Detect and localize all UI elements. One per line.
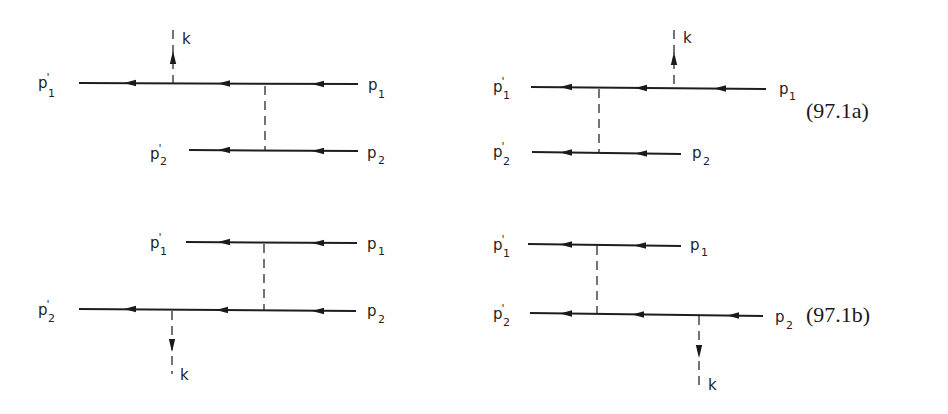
p1-prime-subscript: 1 [503, 89, 510, 102]
p1-prime-subscript: 1 [503, 247, 510, 260]
arrow-down-icon [169, 339, 175, 352]
arrow-left-icon [727, 312, 739, 318]
feynman-diagram-figure: k p' 1 p' 2 p 1 p 2 k p' 1 p' 2 p 1 p 2 … [0, 0, 948, 414]
arrow-down-icon [696, 345, 702, 358]
p1-subscript: 1 [378, 245, 385, 258]
p2-prime-subscript: 2 [48, 312, 55, 325]
diagram-a-left: k p' 1 p' 2 p 1 p 2 [38, 30, 385, 168]
p1-label: p [368, 76, 378, 94]
p1-prime-subscript: 1 [160, 245, 167, 258]
arrow-left-icon [124, 80, 136, 86]
arrow-left-icon [634, 242, 646, 248]
arrow-left-icon [218, 239, 230, 245]
p1-label: p [690, 236, 700, 254]
p2-prime-subscript: 2 [503, 155, 510, 168]
arrow-left-icon [714, 85, 726, 91]
arrow-left-icon [635, 85, 647, 91]
arrow-left-icon [312, 81, 324, 87]
p2-subscript: 2 [703, 155, 710, 168]
p1-subscript: 1 [789, 90, 796, 103]
p2-label: p [775, 308, 785, 326]
p2-subscript: 2 [786, 319, 793, 332]
arrow-left-icon [124, 306, 136, 312]
diagram-a-right: k p' 1 p' 2 p 1 p 2 [493, 29, 796, 168]
p2-prime-subscript: 2 [160, 155, 167, 168]
photon-label: k [180, 366, 189, 384]
p1-prime-subscript: 1 [48, 87, 55, 100]
fermion-line-2 [189, 150, 358, 151]
diagram-b-right: k p' 1 p' 2 p 1 p 2 [493, 233, 793, 394]
arrow-left-icon [312, 240, 324, 246]
photon-label: k [182, 30, 191, 48]
p2-label: p [367, 144, 377, 162]
photon-label: k [708, 376, 717, 394]
arrow-left-icon [635, 150, 647, 156]
fermion-line-1 [186, 242, 357, 243]
arrow-left-icon [560, 84, 572, 90]
arrow-up-icon [170, 51, 176, 64]
arrow-left-icon [218, 147, 230, 153]
fermion-line-1 [528, 244, 681, 246]
p1-label: p [779, 80, 789, 98]
arrow-left-icon [312, 148, 324, 154]
arrow-up-icon [671, 52, 677, 65]
equation-number-b: (97.1b) [806, 302, 870, 327]
fermion-line-2 [532, 152, 681, 154]
photon-label: k [683, 29, 692, 47]
p2-subscript: 2 [378, 313, 385, 326]
arrow-left-icon [312, 308, 324, 314]
arrow-left-icon [560, 241, 572, 247]
p2-label: p [692, 144, 702, 162]
p2-prime-subscript: 2 [503, 316, 510, 329]
arrow-left-icon [560, 149, 572, 155]
p1-subscript: 1 [378, 88, 385, 101]
equation-number-a: (97.1a) [806, 98, 869, 123]
p2-label: p [367, 302, 377, 320]
p2-subscript: 2 [378, 154, 385, 167]
arrow-left-icon [560, 310, 572, 316]
p1-label: p [367, 235, 377, 253]
diagram-b-left: k p' 1 p' 2 p 1 p 2 [38, 231, 385, 384]
arrow-left-icon [216, 307, 228, 313]
p1-subscript: 1 [701, 246, 708, 259]
arrow-left-icon [218, 80, 230, 86]
arrow-left-icon [632, 311, 644, 317]
